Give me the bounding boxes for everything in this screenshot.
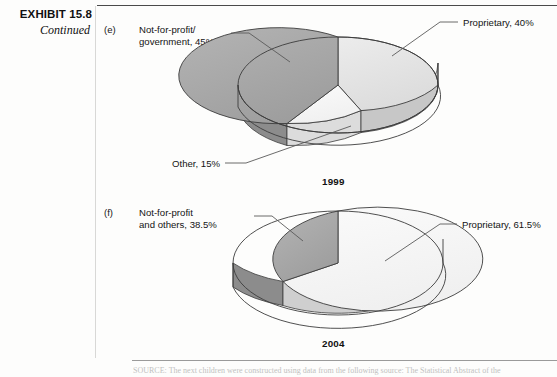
slice-top-not-for-profit-2004 — [273, 211, 338, 282]
label-nfp-1999-line1: Not-for-profit/ — [139, 24, 214, 36]
slice-side-not-for-profit-1999 — [238, 85, 287, 146]
top-divider-rule — [97, 5, 557, 6]
slice-side-not-for-profit-2004 — [233, 263, 283, 306]
pie-top-outline-2004 — [233, 211, 443, 315]
leader-other-1999 — [225, 126, 351, 163]
label-not-for-profit-2004: Not-for-profit and others, 38.5% — [139, 207, 217, 231]
year-caption-1999: 1999 — [322, 176, 345, 187]
panel-letter-e: (e) — [104, 24, 116, 35]
pie-top-outline-1999 — [238, 37, 438, 133]
pie-chart-1999 — [179, 22, 458, 163]
leader-proprietary-2004 — [385, 224, 457, 261]
panel-letter-f: (f) — [104, 207, 113, 218]
source-note: SOURCE: The next children were construct… — [133, 366, 557, 375]
label-not-for-profit-1999: Not-for-profit/ government, 45% — [139, 24, 214, 48]
year-caption-2004: 2004 — [322, 338, 345, 349]
leader-not-for-profit-1999 — [231, 33, 290, 62]
label-proprietary-1999: Proprietary, 40% — [463, 17, 534, 29]
bottom-divider-rule — [132, 360, 557, 361]
slice-side-proprietary-2004 — [283, 239, 443, 313]
slice-side-other-1999 — [287, 111, 361, 146]
label-other-1999: Other, 15% — [172, 158, 220, 170]
pie-chart-2004 — [233, 207, 483, 328]
label-nfp-2004-line1: Not-for-profit — [139, 207, 217, 219]
slice-top-other-1999 — [287, 85, 361, 124]
label-nfp-2004-line2: and others, 38.5% — [139, 219, 217, 231]
pie-rim-outline-2004 — [233, 239, 446, 328]
slice-top-proprietary-1999 — [338, 37, 438, 111]
slice-side-proprietary-1999 — [361, 63, 438, 133]
left-margin-rule — [95, 6, 96, 358]
label-proprietary-2004: Proprietary, 61.5% — [462, 219, 541, 231]
pie-rim-outline-1999 — [238, 63, 441, 145]
exhibit-title: EXHIBIT 15.8 — [4, 8, 92, 21]
exhibit-header: EXHIBIT 15.8 Continued — [4, 8, 92, 38]
label-nfp-1999-line2: government, 45% — [139, 36, 214, 48]
leader-not-for-profit-2004 — [254, 216, 303, 241]
exhibit-page: EXHIBIT 15.8 Continued SOURCE: The next … — [0, 0, 557, 377]
exhibit-subtitle: Continued — [4, 23, 92, 38]
slice-top-proprietary-2004 — [283, 207, 483, 311]
leader-proprietary-1999 — [392, 22, 458, 56]
pie-charts-canvas — [0, 0, 557, 377]
